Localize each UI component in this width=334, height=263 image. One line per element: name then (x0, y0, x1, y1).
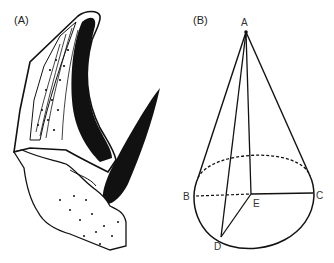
point-a-label: A (241, 17, 248, 28)
point-c-label: C (316, 190, 323, 201)
panel-a-horn-illustration: (A) (0, 0, 167, 263)
point-d-label: D (214, 241, 221, 252)
panel-b-cone-diagram: (B) A B C D E (167, 0, 334, 263)
point-b-label: B (183, 191, 190, 202)
horn-drawing (0, 0, 167, 263)
point-e-label: E (253, 198, 260, 209)
cone-drawing: A B C D E (167, 0, 334, 263)
